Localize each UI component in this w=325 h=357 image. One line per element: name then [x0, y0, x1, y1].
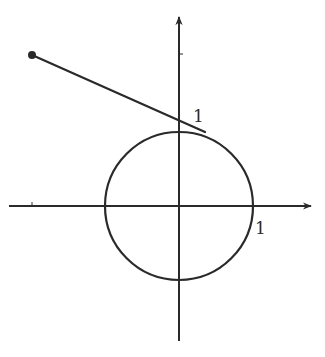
y-unit-label: 1 [193, 108, 204, 125]
x-unit-label: 1 [255, 220, 266, 237]
segment-start-point [28, 51, 36, 59]
diagram-canvas: 1 1 [0, 0, 325, 357]
unit-circle-diagram [0, 0, 325, 357]
